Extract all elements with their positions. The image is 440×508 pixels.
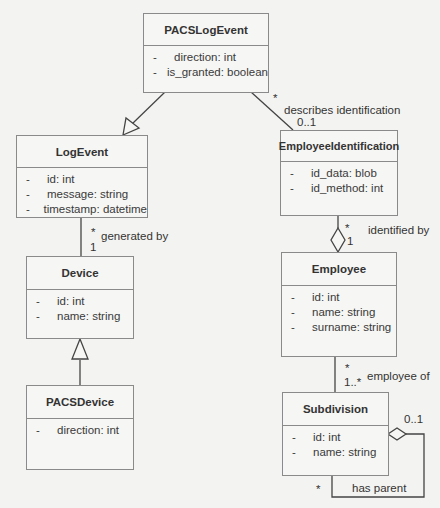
- visibility-marker: -: [281, 166, 303, 181]
- visibility-marker: -: [281, 181, 303, 196]
- visibility-marker: -: [282, 290, 304, 305]
- visibility-marker: -: [27, 309, 49, 324]
- multiplicity-label: *: [316, 483, 320, 495]
- attribute-text: message: string: [39, 187, 128, 202]
- generalization-arrowhead-device: [72, 339, 88, 359]
- attribute-text: id: int: [304, 290, 340, 305]
- attribute-row: -timestamp: datetime: [17, 202, 147, 217]
- relationship-label-employee-of: employee of: [367, 370, 430, 382]
- aggregation-diamond-employee: [331, 228, 345, 252]
- attribute-row: -direction: int: [27, 423, 133, 438]
- uml-diagram-canvas: PACSLogEvent -direction: int -is_granted…: [0, 0, 440, 508]
- multiplicity-label: 1: [90, 241, 96, 253]
- attribute-row: -id: int: [283, 430, 388, 445]
- attribute-text: id: int: [49, 294, 85, 309]
- attribute-text: surname: string: [304, 320, 391, 335]
- visibility-marker: -: [144, 65, 159, 80]
- attribute-text: id_data: blob: [303, 166, 377, 181]
- class-logevent[interactable]: LogEvent -id: int -message: string -time…: [16, 135, 148, 218]
- attribute-text: name: string: [49, 309, 120, 324]
- multiplicity-label: *: [273, 92, 277, 104]
- multiplicity-label: 0..1: [404, 413, 423, 425]
- attribute-row: -id: int: [282, 290, 396, 305]
- attribute-row: -id: int: [17, 172, 147, 187]
- class-employee[interactable]: Employee -id: int -name: string -surname…: [281, 252, 397, 357]
- class-name: Employee: [282, 253, 396, 286]
- attribute-text: direction: int: [166, 50, 236, 65]
- attribute-row: -is_granted: boolean: [144, 65, 268, 80]
- class-name: Subdivision: [283, 393, 388, 426]
- class-name: PACSLogEvent: [144, 14, 268, 46]
- class-employeeidentification[interactable]: EmployeeIdentification -id_data: blob -i…: [280, 130, 398, 216]
- attribute-text: id_method: int: [303, 181, 383, 196]
- multiplicity-label: 0..1: [297, 116, 316, 128]
- visibility-marker: -: [27, 423, 49, 438]
- visibility-marker: -: [282, 305, 304, 320]
- visibility-marker: -: [282, 320, 304, 335]
- class-subdivision[interactable]: Subdivision -id: int -name: string: [282, 392, 389, 476]
- attribute-text: direction: int: [49, 423, 119, 438]
- attribute-text: is_granted: boolean: [159, 65, 268, 80]
- visibility-marker: -: [17, 202, 35, 217]
- attribute-row: -id_data: blob: [281, 166, 397, 181]
- attribute-row: -name: string: [282, 305, 396, 320]
- class-name: LogEvent: [17, 136, 147, 168]
- relationship-label-generated-by: generated by: [101, 230, 168, 242]
- attribute-text: id: int: [39, 172, 75, 187]
- multiplicity-label: *: [91, 226, 95, 238]
- class-pacslogevent[interactable]: PACSLogEvent -direction: int -is_granted…: [143, 13, 269, 93]
- attribute-row: -name: string: [27, 309, 133, 324]
- attribute-text: timestamp: datetime: [35, 202, 147, 217]
- attribute-text: name: string: [305, 445, 376, 460]
- generalization-line-pacslogevent-logevent: [132, 92, 165, 124]
- relationship-label-identified-by: identified by: [368, 224, 429, 236]
- generalization-arrowhead-logevent: [123, 118, 139, 135]
- aggregation-diamond-subdivision: [388, 428, 406, 440]
- attribute-text: id: int: [305, 430, 341, 445]
- attribute-text: name: string: [304, 305, 375, 320]
- class-name: EmployeeIdentification: [281, 131, 397, 162]
- visibility-marker: -: [144, 50, 166, 65]
- visibility-marker: -: [17, 172, 39, 187]
- attribute-row: -surname: string: [282, 320, 396, 335]
- multiplicity-label: 1: [347, 235, 353, 247]
- visibility-marker: -: [17, 187, 39, 202]
- class-pacsdevice[interactable]: PACSDevice -direction: int: [26, 385, 134, 470]
- visibility-marker: -: [27, 294, 49, 309]
- attribute-row: -message: string: [17, 187, 147, 202]
- relationship-label-has-parent: has parent: [352, 482, 406, 494]
- attribute-row: -direction: int: [144, 50, 268, 65]
- attribute-row: -name: string: [283, 445, 388, 460]
- visibility-marker: -: [283, 430, 305, 445]
- visibility-marker: -: [283, 445, 305, 460]
- class-device[interactable]: Device -id: int -name: string: [26, 256, 134, 339]
- class-name: PACSDevice: [27, 386, 133, 419]
- multiplicity-label: *: [345, 362, 349, 374]
- relationship-label-describes-identification: describes identification: [284, 104, 400, 116]
- multiplicity-label: *: [345, 222, 349, 234]
- class-name: Device: [27, 257, 133, 290]
- attribute-row: -id_method: int: [281, 181, 397, 196]
- multiplicity-label: 1..*: [344, 376, 361, 388]
- attribute-row: -id: int: [27, 294, 133, 309]
